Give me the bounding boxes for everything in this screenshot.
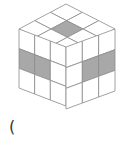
cube-figure [0, 0, 138, 147]
answer-parenthesis: ( [9, 119, 15, 135]
cube-cells [19, 4, 115, 109]
